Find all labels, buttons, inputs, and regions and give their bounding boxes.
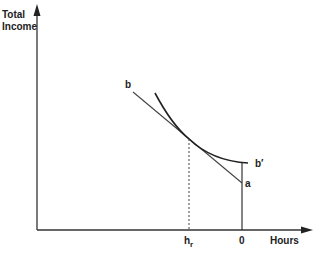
x-axis-label: Hours [270, 235, 299, 246]
label-zero: 0 [239, 235, 245, 246]
y-axis-arrow-icon [34, 4, 41, 16]
indifference-curve [155, 93, 248, 163]
label-b-prime: b′ [255, 158, 264, 169]
labor-leisure-diagram: Total Income b b′ a hr 0 Hours [0, 0, 317, 258]
label-a: a [245, 178, 251, 189]
label-hr-sub: r [190, 240, 193, 249]
label-b: b [125, 79, 131, 90]
y-axis-label-line2: Income [2, 21, 37, 32]
label-hr: hr [184, 235, 193, 249]
x-axis-arrow-icon [301, 227, 313, 234]
y-axis-label-line1: Total [2, 9, 25, 20]
